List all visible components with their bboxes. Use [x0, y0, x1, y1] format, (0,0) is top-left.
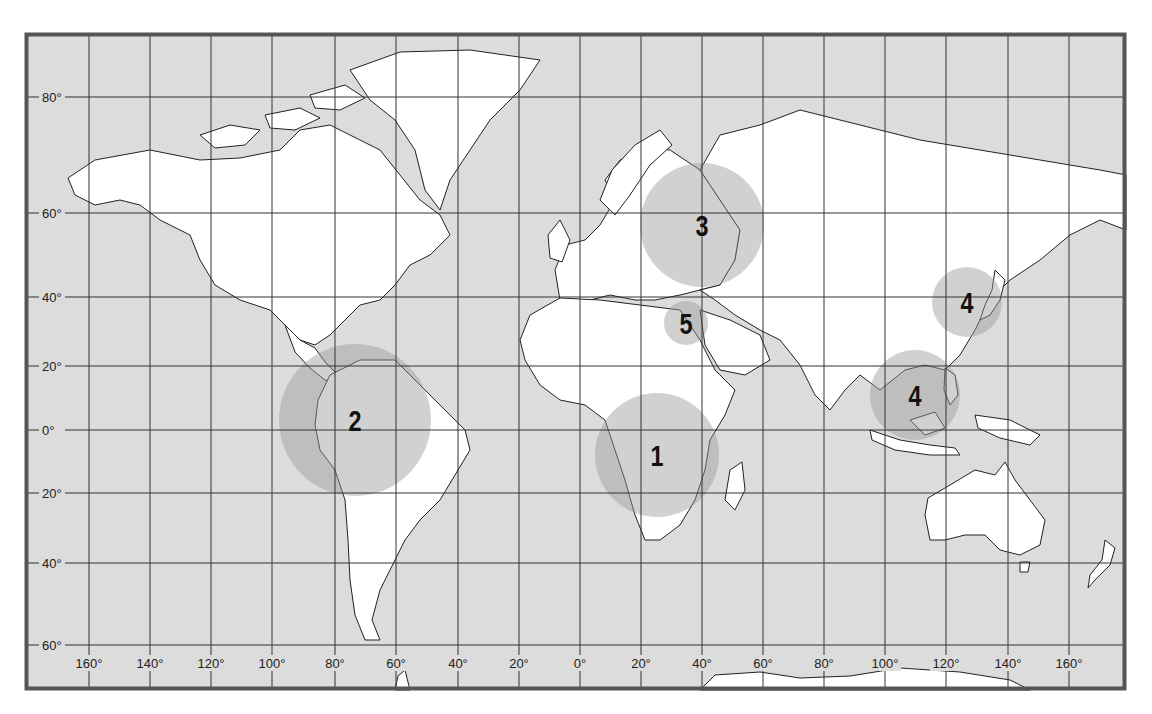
longitude-label: 60°	[753, 656, 773, 671]
longitude-label: 80°	[325, 656, 345, 671]
world-map: 80°60°40°20°0°20°40°60° 160°140°120°100°…	[0, 0, 1152, 714]
longitude-label: 80°	[814, 656, 834, 671]
latitude-label: 40°	[42, 556, 62, 571]
region-number: 4	[908, 379, 921, 412]
longitude-label: 120°	[198, 656, 225, 671]
latitude-label: 60°	[42, 638, 62, 653]
latitude-label: 20°	[42, 359, 62, 374]
latitude-label: 0°	[42, 423, 54, 438]
region-number: 1	[650, 439, 663, 472]
region-number: 5	[679, 307, 692, 340]
longitude-label: 0°	[574, 656, 586, 671]
region-number: 4	[960, 286, 973, 319]
longitude-label: 60°	[386, 656, 406, 671]
longitude-labels: 160°140°120°100°80°60°40°20°0°20°40°60°8…	[73, 655, 1085, 671]
longitude-label: 100°	[259, 656, 286, 671]
longitude-label: 40°	[448, 656, 468, 671]
longitude-label: 140°	[995, 656, 1022, 671]
longitude-label: 160°	[1056, 656, 1083, 671]
latitude-label: 20°	[42, 486, 62, 501]
longitude-label: 40°	[692, 656, 712, 671]
latitude-label: 80°	[42, 90, 62, 105]
longitude-label: 160°	[76, 656, 103, 671]
longitude-label: 20°	[509, 656, 529, 671]
region-number: 3	[695, 209, 708, 242]
latitude-label: 40°	[42, 290, 62, 305]
longitude-label: 120°	[933, 656, 960, 671]
region-number: 2	[348, 404, 361, 437]
latitude-label: 60°	[42, 206, 62, 221]
longitude-label: 20°	[631, 656, 651, 671]
longitude-label: 100°	[872, 656, 899, 671]
longitude-label: 140°	[137, 656, 164, 671]
